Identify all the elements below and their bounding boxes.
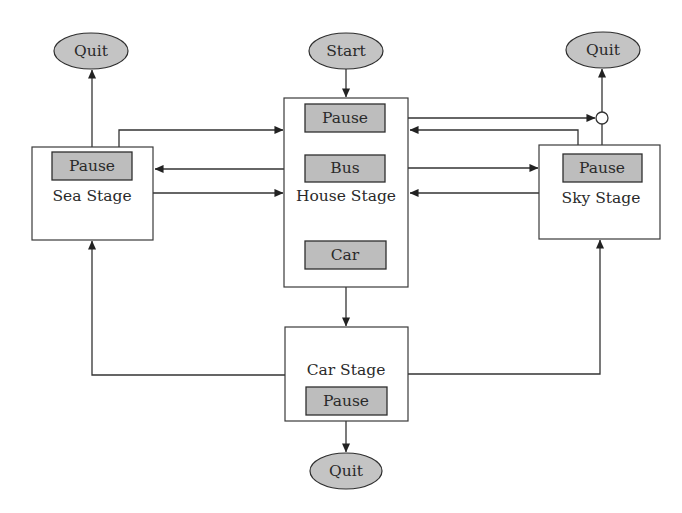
sea-pause-label: Pause [69,157,115,175]
terminal-quit-car-label: Quit [329,462,364,480]
terminal-quit-sky-label: Quit [586,41,621,59]
sea-stage-title: Sea Stage [52,187,131,205]
house-stage-title: House Stage [296,187,396,205]
edge-car-stage-to-sea [92,241,285,375]
house-car-button[interactable]: Car [305,241,386,269]
terminal-start[interactable]: Start [309,33,383,69]
sea-pause-button[interactable]: Pause [52,152,132,180]
stage-house: Pause Bus House Stage Car [284,98,408,287]
stage-car: Car Stage Pause [285,327,408,421]
terminal-quit-sea-label: Quit [74,42,109,60]
house-bus-button[interactable]: Bus [305,155,385,182]
car-pause-button[interactable]: Pause [306,387,387,415]
stage-sky: Pause Sky Stage [539,145,660,239]
sky-pause-button[interactable]: Pause [563,154,642,182]
stage-flow-diagram: Start Quit Quit Quit Pause Sea Stage Pau… [0,0,682,513]
terminal-quit-car[interactable]: Quit [310,453,382,489]
house-pause-label: Pause [322,109,368,127]
car-pause-label: Pause [323,392,369,410]
sky-stage-title: Sky Stage [562,189,641,207]
terminal-quit-sky[interactable]: Quit [566,32,640,68]
house-pause-button[interactable]: Pause [305,104,385,132]
house-bus-label: Bus [330,159,359,177]
sky-pause-label: Pause [579,159,625,177]
house-car-label: Car [331,246,360,264]
edge-car-stage-to-sky [408,240,600,374]
car-stage-title: Car Stage [307,361,386,379]
stage-sea: Pause Sea Stage [32,147,153,240]
terminal-quit-sea[interactable]: Quit [54,33,128,69]
terminal-start-label: Start [326,42,366,60]
junction-node [596,112,608,124]
